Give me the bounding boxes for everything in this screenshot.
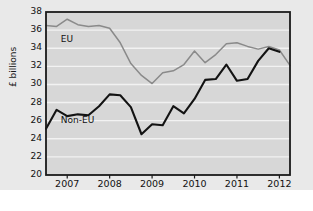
plot-background	[46, 12, 290, 175]
x-tick-label: 2007	[47, 178, 87, 189]
chart-plot-frame: £ billions 20222426283032343638 EU Non-E…	[0, 0, 313, 190]
chart-figure: £ billions 20222426283032343638 EU Non-E…	[0, 0, 313, 211]
chart-canvas	[0, 0, 313, 190]
x-tick-label: 2008	[90, 178, 130, 189]
x-tick-label: 2009	[132, 178, 172, 189]
x-axis-ticks: 200720082009201020112012	[0, 176, 313, 190]
x-tick-label: 2012	[259, 178, 299, 189]
series-label-eu: EU	[61, 34, 73, 44]
source-band: Source: Bank of England	[0, 190, 313, 211]
x-tick-label: 2011	[217, 178, 257, 189]
series-label-non-eu: Non-EU	[61, 115, 94, 125]
x-tick-label: 2010	[175, 178, 215, 189]
